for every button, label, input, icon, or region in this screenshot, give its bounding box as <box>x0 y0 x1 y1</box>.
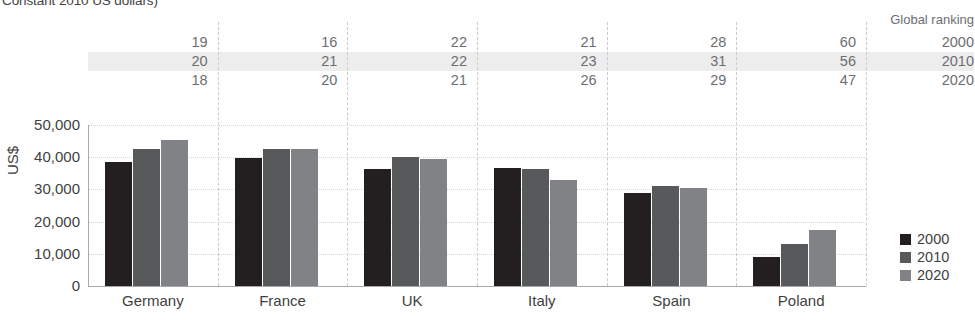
bar-2000 <box>235 158 262 286</box>
y-axis-tick: 50,000 <box>0 116 80 133</box>
bar-2010 <box>263 149 290 286</box>
bar-2010 <box>652 186 679 286</box>
rank-row-year: 2000 <box>874 33 974 52</box>
x-axis-label-poland: Poland <box>736 292 866 309</box>
rank-cell: 21 <box>218 52 348 71</box>
bar-2010 <box>392 157 419 286</box>
bar-group-france <box>218 125 348 286</box>
bar-group-germany <box>88 125 218 286</box>
x-axis-label-france: France <box>218 292 348 309</box>
y-axis-tick: 20,000 <box>0 213 80 230</box>
bar-2020 <box>550 180 577 286</box>
x-axis-label-italy: Italy <box>477 292 607 309</box>
rank-cell: 16 <box>218 33 348 52</box>
rank-cell: 21 <box>347 71 477 90</box>
bar-2000 <box>364 169 391 286</box>
global-ranking-header: Global ranking <box>890 12 974 27</box>
y-axis-tick: 30,000 <box>0 180 80 197</box>
bar-2000 <box>624 193 651 286</box>
rank-cell: 21 <box>477 33 607 52</box>
bar-2010 <box>133 149 160 286</box>
bar-2000 <box>105 162 132 286</box>
legend-swatch-icon <box>900 252 911 263</box>
y-axis-tick: 40,000 <box>0 148 80 165</box>
bar-2000 <box>753 257 780 286</box>
bar-2010 <box>781 244 808 287</box>
table-row: 19 16 22 21 28 60 2000 <box>88 33 974 52</box>
rank-cell: 31 <box>607 52 737 71</box>
rank-cell: 18 <box>88 71 218 90</box>
rank-cell: 20 <box>218 71 348 90</box>
x-axis-label-uk: UK <box>347 292 477 309</box>
bar-group-spain <box>607 125 737 286</box>
x-axis-line <box>88 286 866 287</box>
rank-cell: 19 <box>88 33 218 52</box>
bar-2020 <box>161 140 188 287</box>
rank-cell: 22 <box>347 33 477 52</box>
bar-group-uk <box>347 125 477 286</box>
y-axis-tick: 10,000 <box>0 245 80 262</box>
rank-cell: 56 <box>736 52 866 71</box>
rank-row-year: 2010 <box>874 52 974 71</box>
plot-area <box>88 125 866 286</box>
category-divider <box>866 22 867 286</box>
legend-item-2020[interactable]: 2020 <box>900 267 949 283</box>
legend-label: 2010 <box>917 249 949 265</box>
legend-label: 2020 <box>917 267 949 283</box>
bar-2000 <box>494 168 521 286</box>
rank-cell: 20 <box>88 52 218 71</box>
table-row: 20 21 22 23 31 56 2010 <box>88 52 974 71</box>
chart-legend: 2000 2010 2020 <box>900 231 949 285</box>
bar-group-poland <box>736 125 866 286</box>
legend-item-2010[interactable]: 2010 <box>900 249 949 265</box>
rank-row-year: 2020 <box>874 71 974 90</box>
bar-2020 <box>680 188 707 286</box>
rank-cell: 28 <box>607 33 737 52</box>
bar-2020 <box>809 230 836 286</box>
y-axis-tick: 0 <box>0 277 80 294</box>
rank-cell: 47 <box>736 71 866 90</box>
legend-swatch-icon <box>900 234 911 245</box>
legend-item-2000[interactable]: 2000 <box>900 231 949 247</box>
legend-label: 2000 <box>917 231 949 247</box>
table-row: 18 20 21 26 29 47 2020 <box>88 71 974 90</box>
bar-2010 <box>522 169 549 286</box>
legend-swatch-icon <box>900 270 911 281</box>
x-axis-label-spain: Spain <box>607 292 737 309</box>
x-axis-label-germany: Germany <box>88 292 218 309</box>
rank-cell: 26 <box>477 71 607 90</box>
rank-cell: 23 <box>477 52 607 71</box>
rank-cell: 22 <box>347 52 477 71</box>
bar-2020 <box>291 149 318 286</box>
rank-cell: 29 <box>607 71 737 90</box>
bar-group-italy <box>477 125 607 286</box>
bar-2020 <box>420 159 447 286</box>
page-title: Constant 2010 US dollars) <box>2 0 158 8</box>
rank-cell: 60 <box>736 33 866 52</box>
